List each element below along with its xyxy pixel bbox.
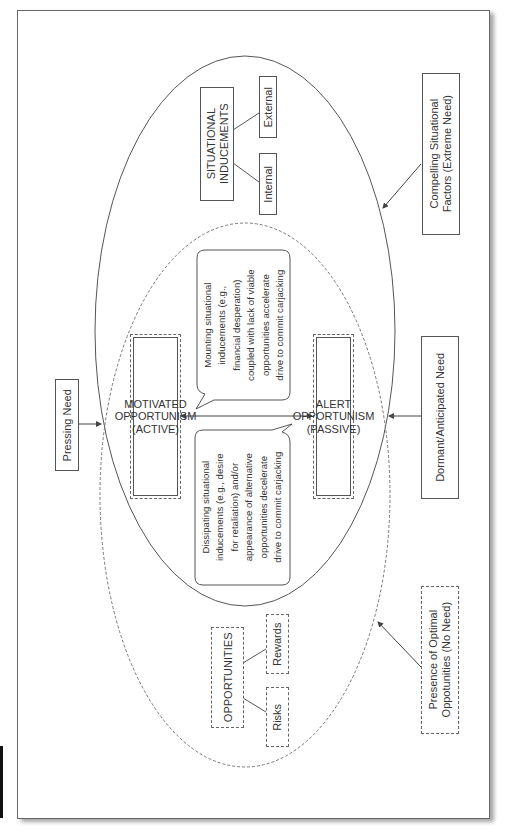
motivated-opportunism-subtitle: (ACTIVE) xyxy=(115,423,197,436)
compelling-factors-box: Compelling Situational Factors (Extreme … xyxy=(422,73,460,235)
connector-internal xyxy=(233,163,259,182)
alert-opportunism-box: ALERT OPPORTUNISM (PASSIVE) xyxy=(313,334,354,499)
presence-line-2: Oppotunities (No Need) xyxy=(440,602,453,718)
dissipating-line: opportunities decelerate xyxy=(257,452,271,563)
situational-inducements-box: SITUATIONAL INDUCEMENTS xyxy=(200,87,234,201)
mounting-line: financial desperation) xyxy=(229,269,243,380)
dissipating-line: inducements (e.g., desire xyxy=(214,452,228,563)
mounting-line: inducements (e.g., xyxy=(215,269,229,380)
external-box: External xyxy=(259,76,277,138)
alert-opportunism-subtitle: (PASSIVE) xyxy=(293,423,375,436)
opportunities-label: OPPORTUNITIES xyxy=(221,633,234,723)
compelling-line-1: Compelling Situational xyxy=(428,95,441,212)
motivated-opportunism-box: MOTIVATED OPPORTUNISM (ACTIVE) xyxy=(130,334,181,499)
compelling-arrow xyxy=(383,164,421,208)
internal-label: Internal xyxy=(262,166,275,203)
rewards-box: Rewards xyxy=(266,614,289,674)
dormant-need-label: Dormant/Anticipated Need xyxy=(434,353,447,482)
dissipating-line: drive to commit carjacking xyxy=(271,452,285,563)
internal-box: Internal xyxy=(259,153,277,215)
connector-external xyxy=(233,113,259,130)
rewards-label: Rewards xyxy=(271,622,284,665)
mounting-bubble: Mounting situational inducements (e.g., … xyxy=(197,250,290,400)
dissipating-line: appearance of alternative xyxy=(243,452,257,563)
risks-label: Risks xyxy=(271,704,284,731)
opportunities-box: OPPORTUNITIES xyxy=(211,627,244,728)
compelling-line-2: Factors (Extreme Need) xyxy=(441,95,454,212)
presence-opportunities-box: Presence of Optimal Oppotunities (No Nee… xyxy=(421,586,459,734)
mounting-line: opportunities accelerate xyxy=(258,269,272,380)
pressing-need-box: Pressing Need xyxy=(55,379,79,471)
mounting-line: drive to commit carjacking xyxy=(272,269,286,380)
dissipating-line: Dissipating situational xyxy=(199,452,213,563)
dissipating-bubble: Dissipating situational inducements (e.g… xyxy=(195,430,290,585)
presence-line-1: Presence of Optimal xyxy=(427,602,440,718)
situational-inducements-label: SITUATIONAL INDUCEMENTS xyxy=(204,104,229,185)
dormant-need-box: Dormant/Anticipated Need xyxy=(421,336,459,499)
pressing-need-label: Pressing Need xyxy=(61,389,74,461)
presence-arrow xyxy=(378,622,421,667)
external-label: External xyxy=(262,87,275,127)
mounting-line: coupled with lack of viable xyxy=(244,269,258,380)
risks-box: Risks xyxy=(266,687,289,747)
connector-risks xyxy=(243,698,266,712)
motivated-opportunism-title: MOTIVATED OPPORTUNISM xyxy=(115,398,197,423)
connector-rewards xyxy=(243,649,266,663)
dissipating-line: for retaliation) and/or xyxy=(228,452,242,563)
mounting-line: Mounting situational xyxy=(200,269,214,380)
alert-opportunism-title: ALERT OPPORTUNISM xyxy=(293,398,375,423)
